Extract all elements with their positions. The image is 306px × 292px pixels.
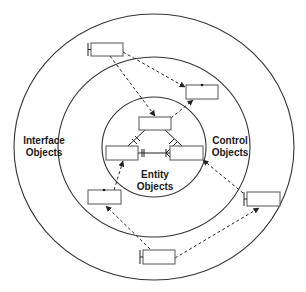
control-object-lower-left (88, 189, 121, 204)
entity-objects-label: Entity Objects (137, 169, 174, 192)
interface-object-right (244, 192, 280, 206)
svg-text:Objects: Objects (212, 147, 249, 158)
layered-objects-diagram: Interface Objects Control Objects Entity… (0, 0, 306, 292)
entity-object-right (170, 146, 203, 160)
control-object-top (186, 84, 218, 99)
svg-text:Objects: Objects (137, 181, 174, 192)
interface-object-top (88, 43, 123, 56)
entity-object-top (139, 117, 171, 130)
control-objects-label: Control Objects (212, 135, 249, 158)
svg-text:Objects: Objects (26, 147, 63, 158)
svg-text:Control: Control (212, 135, 248, 146)
entity-object-left (106, 146, 138, 160)
svg-text:Interface: Interface (23, 135, 65, 146)
svg-text:Entity: Entity (141, 169, 169, 180)
interface-objects-label: Interface Objects (23, 135, 65, 158)
interface-object-bottom (140, 250, 175, 264)
